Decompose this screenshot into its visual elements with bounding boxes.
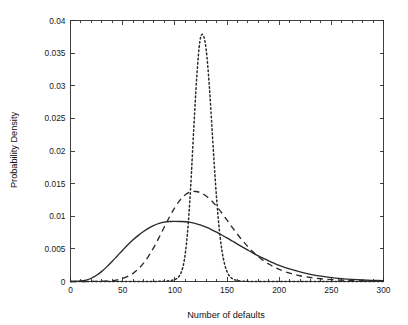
chart-canvas: 00.0050.010.0150.020.0250.030.0350.04050…	[0, 0, 408, 325]
x-tick-label-3: 150	[220, 285, 234, 295]
curve-group	[71, 34, 384, 281]
x-tick-label-2: 100	[168, 285, 182, 295]
tick-marks	[71, 21, 384, 282]
curve-dotted	[71, 34, 384, 281]
probability-density-chart: 00.0050.010.0150.020.0250.030.0350.04050…	[0, 0, 408, 325]
y-tick-label-2: 0.01	[49, 211, 66, 221]
axis-frame	[71, 21, 384, 282]
y-tick-label-1: 0.005	[45, 244, 66, 254]
y-tick-label-7: 0.035	[45, 48, 66, 58]
plot-frame	[71, 21, 384, 282]
y-tick-label-8: 0.04	[49, 16, 66, 26]
y-tick-label-3: 0.015	[45, 179, 66, 189]
curve-dashed	[71, 191, 384, 281]
x-axis-title: Number of defaults	[187, 310, 265, 320]
tick-labels: 00.0050.010.0150.020.0250.030.0350.04050…	[45, 16, 391, 295]
x-tick-label-1: 50	[118, 285, 128, 295]
y-tick-label-5: 0.025	[45, 113, 66, 123]
y-axis-title: Probability Density	[9, 112, 19, 188]
y-tick-label-6: 0.03	[49, 81, 66, 91]
x-tick-label-6: 300	[377, 285, 391, 295]
x-tick-label-0: 0	[68, 285, 73, 295]
x-tick-label-5: 250	[324, 285, 338, 295]
x-tick-label-4: 200	[272, 285, 286, 295]
y-tick-label-0: 0	[61, 277, 66, 287]
y-tick-label-4: 0.02	[49, 146, 66, 156]
